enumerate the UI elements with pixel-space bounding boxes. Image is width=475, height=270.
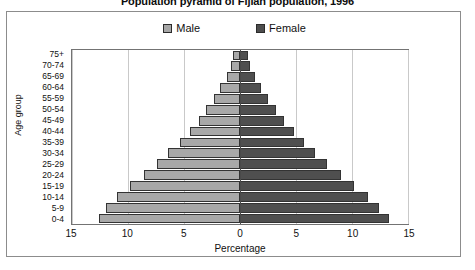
bar-female: [240, 159, 327, 169]
bar-female: [240, 116, 284, 126]
x-axis-title: Percentage: [71, 243, 409, 254]
bar-female: [240, 203, 379, 213]
chart-legend: Male Female: [7, 22, 462, 34]
legend-item-male: Male: [163, 22, 200, 34]
bar-male: [206, 105, 240, 115]
y-axis-tick-label: 45-49: [21, 115, 67, 126]
y-axis-tick-label: 25-29: [21, 159, 67, 170]
bar-male: [157, 159, 240, 169]
bar-male: [227, 72, 240, 82]
bar-female: [240, 181, 354, 191]
x-axis-tick-label: 5: [294, 228, 300, 239]
legend-swatch-male-icon: [163, 24, 172, 33]
bar-female: [240, 61, 250, 71]
bar-female: [240, 51, 248, 61]
bar-female: [240, 148, 315, 158]
y-axis-tick-label: 5-9: [21, 203, 67, 214]
x-axis-tick-label: 0: [237, 228, 243, 239]
bar-female: [240, 83, 261, 93]
bar-male: [233, 51, 240, 61]
bar-male: [106, 203, 240, 213]
bar-female: [240, 105, 276, 115]
gridline: [408, 50, 409, 224]
y-axis-tick-label: 60-64: [21, 82, 67, 93]
y-axis-tick-label: 75+: [21, 49, 67, 60]
x-axis-tick-label: 15: [403, 228, 414, 239]
y-axis-tick-label: 35-39: [21, 137, 67, 148]
bar-male: [117, 192, 240, 202]
bar-male: [231, 61, 240, 71]
chart-title: Population pyramid of Fijian population,…: [0, 0, 475, 7]
y-axis-tick-label: 50-54: [21, 104, 67, 115]
y-axis-tick-label: 15-19: [21, 181, 67, 192]
bar-male: [220, 83, 240, 93]
zero-axis-line: [240, 50, 241, 224]
bar-female: [240, 170, 341, 180]
bar-male: [199, 116, 240, 126]
bar-male: [144, 170, 240, 180]
y-axis-tick-label: 30-34: [21, 148, 67, 159]
bar-female: [240, 127, 294, 137]
x-axis-tick-label: 10: [347, 228, 358, 239]
x-axis-tick-label: 15: [65, 228, 76, 239]
y-axis-tick-label: 70-74: [21, 60, 67, 71]
bar-female: [240, 138, 304, 148]
legend-swatch-female-icon: [256, 24, 265, 33]
bar-male: [130, 181, 240, 191]
y-axis-tick-labels: 75+70-7465-6960-6455-5950-5445-4940-4435…: [21, 49, 67, 225]
legend-item-female: Female: [256, 22, 306, 34]
population-pyramid-figure: Population pyramid of Fijian population,…: [0, 0, 475, 270]
x-axis-tick-labels: 15105051015: [71, 228, 409, 242]
chart-frame: Male Female 75+70-7465-6960-6455-5950-54…: [6, 11, 461, 257]
x-axis-tick-label: 5: [181, 228, 187, 239]
legend-label-female: Female: [269, 22, 306, 34]
bar-female: [240, 72, 255, 82]
bar-male: [99, 214, 240, 224]
bar-female: [240, 192, 368, 202]
y-axis-tick-label: 65-69: [21, 71, 67, 82]
y-axis-tick-label: 20-24: [21, 170, 67, 181]
bar-male: [180, 138, 240, 148]
x-axis-tick-label: 10: [122, 228, 133, 239]
y-axis-tick-label: 40-44: [21, 126, 67, 137]
legend-label-male: Male: [176, 22, 200, 34]
bar-female: [240, 94, 268, 104]
y-axis-tick-label: 10-14: [21, 192, 67, 203]
plot-area: [71, 49, 409, 225]
y-axis-tick-label: 55-59: [21, 93, 67, 104]
bar-male: [168, 148, 240, 158]
bar-female: [240, 214, 389, 224]
y-axis-tick-label: 0-4: [21, 214, 67, 225]
y-axis-title: Age group: [13, 70, 23, 160]
bar-male: [214, 94, 240, 104]
bar-male: [190, 127, 240, 137]
